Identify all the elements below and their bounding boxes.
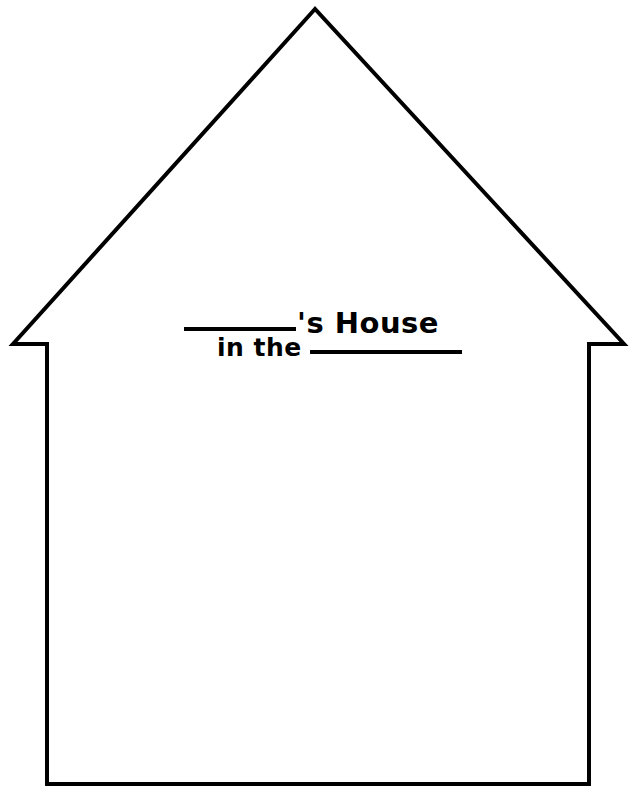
worksheet-page: 's House in the: [0, 0, 637, 798]
house-shape-path: [13, 9, 624, 784]
house-outline: [0, 0, 637, 798]
